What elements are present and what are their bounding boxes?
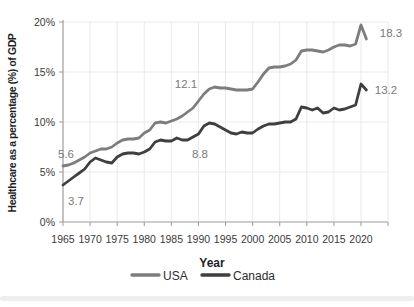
data-label-canada-1965: 3.7 <box>68 195 84 207</box>
x-tick-label: 1970 <box>78 233 102 245</box>
x-tick-label: 2020 <box>349 233 373 245</box>
x-tick-label: 2010 <box>295 233 319 245</box>
y-tick-label: 10% <box>34 116 55 128</box>
legend-usa-label: USA <box>163 269 188 283</box>
x-axis-tick-labels: 1965197019751980198519901995200020052010… <box>51 233 373 245</box>
data-label-usa-1990: 12.1 <box>175 78 197 90</box>
x-tick-label: 1980 <box>133 233 157 245</box>
legend-canada-label: Canada <box>233 269 275 283</box>
y-tick-label: 5% <box>40 166 55 178</box>
canada-series-line <box>63 84 366 185</box>
y-tick-label: 20% <box>34 16 55 28</box>
data-label-canada-2021: 13.2 <box>375 84 397 96</box>
axes <box>59 20 388 226</box>
y-axis-tick-labels: 0%5%10%15%20% <box>34 16 55 228</box>
chart-svg: 1965197019751980198519901995200020052010… <box>0 0 414 307</box>
series-lines <box>63 25 366 185</box>
data-label-usa-2021: 18.3 <box>380 27 402 39</box>
x-tick-label: 1965 <box>51 233 75 245</box>
x-axis-title: Year <box>199 256 225 270</box>
x-tick-label: 1975 <box>106 233 130 245</box>
data-labels: 5.6 3.7 12.1 8.8 18.3 13.2 <box>58 27 402 207</box>
healthcare-gdp-line-chart: 1965197019751980198519901995200020052010… <box>0 0 414 307</box>
x-tick-label: 1990 <box>187 233 211 245</box>
x-tick-label: 2015 <box>322 233 346 245</box>
x-tick-label: 1995 <box>214 233 238 245</box>
data-label-canada-1990: 8.8 <box>192 148 208 160</box>
x-tick-label: 2000 <box>241 233 265 245</box>
page-edge-artifact <box>0 296 414 301</box>
y-axis-title: Healthcare as a percentage (%) of GDP <box>6 33 18 212</box>
data-label-usa-1965: 5.6 <box>58 148 74 160</box>
y-tick-label: 0% <box>40 216 55 228</box>
x-tick-label: 1985 <box>160 233 184 245</box>
usa-series-line <box>63 25 366 166</box>
x-tick-label: 2005 <box>268 233 292 245</box>
legend: USA Canada <box>132 269 275 283</box>
gridlines <box>63 22 388 222</box>
y-tick-label: 15% <box>34 66 55 78</box>
